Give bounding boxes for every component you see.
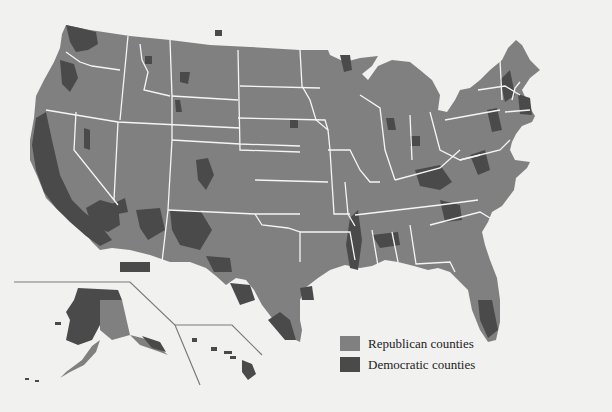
democratic-swatch [340, 357, 360, 372]
legend: Republican counties Democratic counties [340, 333, 475, 375]
legend-label: Democratic counties [368, 357, 475, 373]
legend-item-democratic: Democratic counties [340, 354, 475, 375]
alaska-inset [14, 282, 200, 385]
republican-swatch [340, 336, 360, 351]
legend-item-republican: Republican counties [340, 333, 475, 354]
us-county-map [0, 0, 612, 412]
hawaii-inset [175, 325, 262, 380]
legend-label: Republican counties [368, 336, 474, 352]
